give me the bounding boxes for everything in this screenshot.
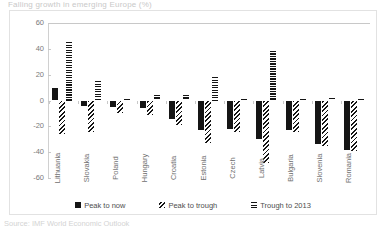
x-tick-mark <box>312 101 313 104</box>
x-label-cell: Poland <box>97 168 126 198</box>
x-label-cell: Slovenia <box>302 168 331 198</box>
y-tick-label: 40 <box>18 45 44 52</box>
x-axis-label: Estonia <box>200 155 208 180</box>
legend-item[interactable]: Trough to 2013 <box>251 201 311 210</box>
bar <box>212 77 218 100</box>
x-label-cell: Slovakia <box>68 168 97 198</box>
x-axis-label: Poland <box>112 156 120 179</box>
y-tick-label: 0 <box>18 97 44 104</box>
bar <box>124 99 130 100</box>
bar-group <box>107 23 136 178</box>
bar <box>66 42 72 100</box>
x-tick-mark <box>49 101 50 104</box>
legend-swatch-icon <box>251 202 257 208</box>
bar <box>95 81 101 100</box>
bar-group <box>224 23 253 178</box>
x-label-cell: Czech <box>214 168 243 198</box>
bar <box>110 101 116 107</box>
x-axis-label: Czech <box>229 157 237 178</box>
bar <box>322 101 328 146</box>
x-axis-label: Romania <box>345 153 353 183</box>
bar <box>117 101 123 114</box>
x-axis-label: Hungary <box>141 154 149 182</box>
legend-label: Peak to trough <box>168 201 217 210</box>
x-tick-mark <box>78 101 79 104</box>
bar <box>198 101 204 131</box>
x-tick-mark <box>253 101 254 104</box>
y-tick-label: 20 <box>18 71 44 78</box>
bar <box>234 101 240 132</box>
bar <box>344 101 350 150</box>
x-label-cell: Bulgaria <box>273 168 302 198</box>
bar <box>263 101 269 163</box>
bar <box>329 98 335 101</box>
bar <box>88 101 94 132</box>
legend-label: Peak to now <box>84 201 125 210</box>
x-tick-mark <box>107 101 108 104</box>
x-label-cell: Croatia <box>156 168 185 198</box>
x-tick-mark <box>137 101 138 104</box>
x-tick-mark <box>166 101 167 104</box>
x-axis-label: Slovakia <box>83 154 91 182</box>
x-tick-mark <box>341 101 342 104</box>
bar <box>227 101 233 129</box>
bar <box>183 95 189 100</box>
y-tick-label: -40 <box>18 148 44 155</box>
x-axis-label: Slovenia <box>316 154 324 183</box>
legend-item[interactable]: Peak to now <box>75 201 125 210</box>
y-tick-label: -20 <box>18 122 44 129</box>
bar <box>52 88 58 101</box>
chart-legend: Peak to nowPeak to troughTrough to 2013 <box>9 198 377 212</box>
legend-swatch-icon <box>159 202 165 208</box>
x-label-cell: Romania <box>331 168 360 198</box>
chart-title-cutoff: Falling growth in emerging Europe (%) <box>8 0 308 9</box>
bar <box>205 101 211 144</box>
x-axis-label: Lithuania <box>54 153 62 183</box>
bar <box>358 99 364 100</box>
bar <box>147 101 153 115</box>
x-axis-label: Croatia <box>170 156 178 180</box>
bar <box>256 101 262 140</box>
x-label-cell: Latvia <box>243 168 272 198</box>
bar <box>270 51 276 100</box>
legend-item[interactable]: Peak to trough <box>159 201 217 210</box>
x-label-cell: Lithuania <box>39 168 68 198</box>
bar <box>315 101 321 145</box>
bar <box>176 101 182 126</box>
y-tick-label: 60 <box>18 19 44 26</box>
x-label-cell: Hungary <box>127 168 156 198</box>
legend-label: Trough to 2013 <box>260 201 311 210</box>
bar <box>154 95 160 100</box>
bar <box>169 101 175 119</box>
source-note-cutoff: Source: IMF World Economic Outlook <box>4 219 304 230</box>
x-label-cell: Estonia <box>185 168 214 198</box>
bar <box>140 101 146 109</box>
x-tick-mark <box>195 101 196 104</box>
x-tick-mark <box>283 101 284 104</box>
bar <box>300 99 306 100</box>
bar <box>351 101 357 151</box>
legend-swatch-icon <box>75 202 81 208</box>
bar <box>293 101 299 132</box>
bar-group <box>166 23 195 178</box>
chart-screenshot: Falling growth in emerging Europe (%) 60… <box>0 0 386 230</box>
x-axis-labels: LithuaniaSlovakiaPolandHungaryCroatiaEst… <box>39 168 360 198</box>
x-axis-label: Bulgaria <box>287 154 295 182</box>
x-tick-mark <box>224 101 225 104</box>
bar <box>286 101 292 131</box>
bar-group <box>253 23 282 178</box>
bar <box>241 99 247 100</box>
bar <box>81 101 87 106</box>
x-axis-label: Latvia <box>258 158 266 178</box>
bar <box>59 101 65 135</box>
